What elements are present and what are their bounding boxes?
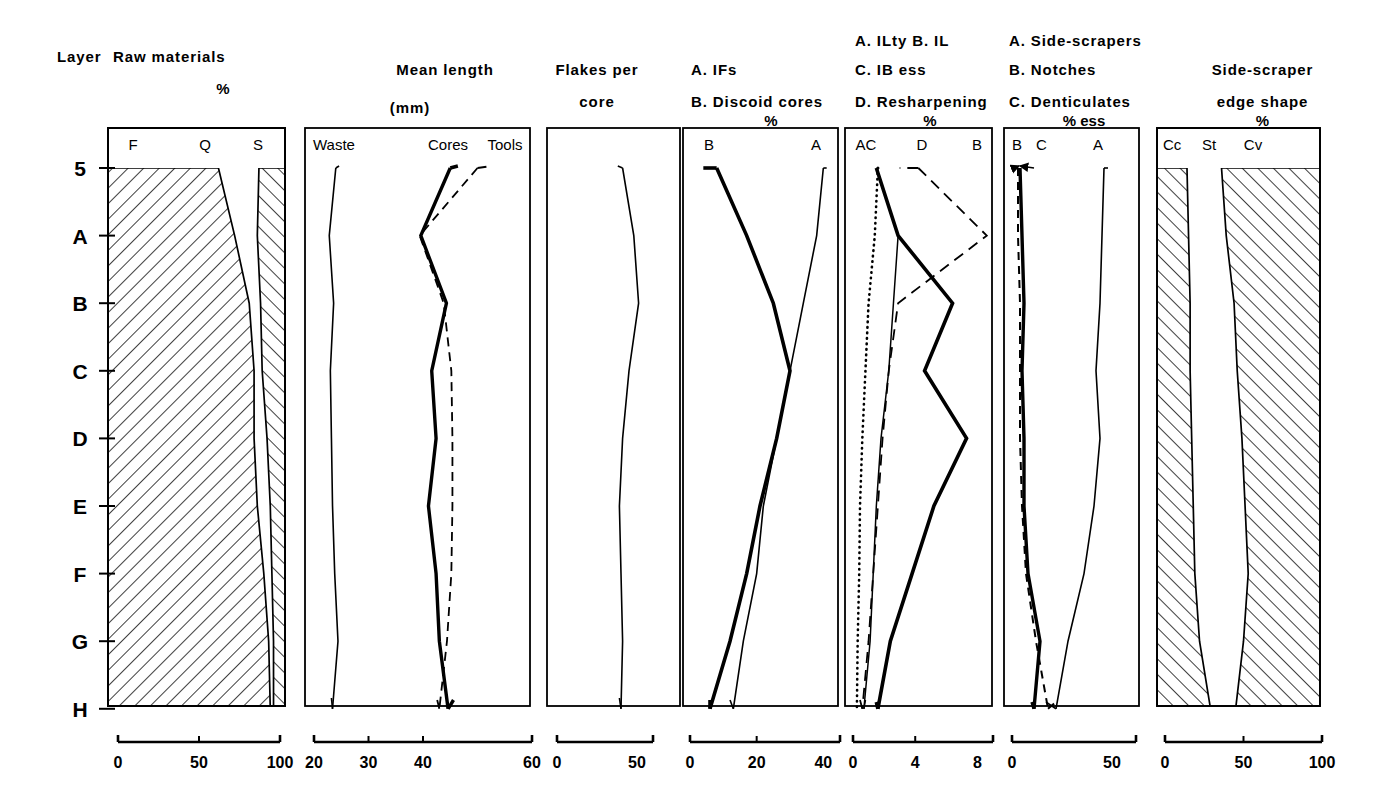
axis-tick-label-edge-shape-100: 100	[1309, 754, 1336, 771]
curve-ib-ess-C	[857, 168, 878, 709]
axis-tick-label-raw-materials-100: 100	[267, 754, 294, 771]
axis-tick-label-scrapers-50: 50	[1103, 754, 1121, 771]
area-edge-Cv	[1222, 168, 1320, 709]
layer-label-G: G	[72, 630, 88, 653]
leader-arrow-denticulates	[1020, 166, 1034, 168]
axis-tick-label-ifs-discoid-0: 0	[686, 754, 695, 771]
series-label-b-p4: B	[972, 136, 982, 153]
series-label-group: FQSWasteCoresToolsBAACDBBCACcStCv	[128, 136, 1262, 153]
layer-label-5: 5	[74, 157, 86, 180]
layer-label-B: B	[72, 292, 87, 315]
layer-label-D: D	[72, 427, 87, 450]
series-label-cv-p6: Cv	[1244, 136, 1263, 153]
area-raw-F	[108, 168, 270, 709]
layer-label-F: F	[74, 563, 87, 586]
axis-ifs-discoid: 02040	[686, 735, 840, 771]
diagram-svg: 5ABCDEFGH FQSWasteCoresToolsBAACDBBCACcS…	[0, 0, 1378, 812]
axis-flakes-per-core: 050	[553, 735, 653, 771]
axis-tick-label-scrapers-0: 0	[1008, 754, 1017, 771]
series-label-b-p5: B	[1012, 136, 1022, 153]
layer-label-C: C	[72, 360, 87, 383]
series-label-waste-p1: Waste	[313, 136, 355, 153]
axis-mean-length: 20304060	[305, 735, 541, 771]
axis-tick-label-ifs-discoid-20: 20	[748, 754, 766, 771]
series-label-a-p5: A	[1093, 136, 1103, 153]
curve-il-B	[876, 168, 966, 709]
axis-ilty: 048	[849, 735, 993, 771]
axis-raw-materials: 050100	[114, 735, 294, 771]
series-label-st-p6: St	[1202, 136, 1217, 153]
curve-mean-length-cores	[421, 168, 450, 709]
series-label-cores-p1: Cores	[428, 136, 468, 153]
axis-tick-label-ilty-4: 4	[911, 754, 920, 771]
series-label-a-p3: A	[811, 136, 821, 153]
panel-frame-ifs-discoid	[683, 128, 838, 706]
series-label-tools-p1: Tools	[487, 136, 522, 153]
curve-mean-length-waste	[329, 168, 338, 709]
axis-tick-label-edge-shape-50: 50	[1235, 754, 1253, 771]
axis-edge-shape: 050100	[1161, 735, 1336, 771]
leader-arrow-notches	[1014, 166, 1019, 168]
panel-frame-mean-length	[305, 128, 530, 706]
layer-label-E: E	[73, 495, 87, 518]
axis-scrapers: 050	[1008, 735, 1136, 771]
layer-label-A: A	[72, 225, 87, 248]
layer-label-H: H	[72, 698, 87, 721]
curve-flakes-per-core	[619, 168, 638, 709]
figure-canvas: Layer Raw materials % Mean length (mm) F…	[0, 0, 1378, 812]
curve-notches-B	[1020, 168, 1040, 709]
panel-frame-flakes-per-core	[547, 128, 680, 706]
axis-group: 0501002030406005002040048050050100	[114, 735, 1336, 771]
series-label-c-p5: C	[1036, 136, 1047, 153]
series-label-f-p0: F	[128, 136, 137, 153]
axis-tick-label-flakes-per-core-0: 0	[553, 754, 562, 771]
axis-tick-label-flakes-per-core-50: 50	[628, 754, 646, 771]
area-edge-Cc	[1157, 168, 1211, 709]
series-label-q-p0: Q	[199, 136, 211, 153]
axis-tick-label-mean-length-40: 40	[414, 754, 432, 771]
curve-mean-length-tools	[420, 168, 478, 709]
axis-tick-label-ilty-8: 8	[973, 754, 982, 771]
axis-tick-label-mean-length-30: 30	[360, 754, 378, 771]
axis-tick-label-edge-shape-0: 0	[1161, 754, 1170, 771]
axis-tick-label-ifs-discoid-40: 40	[814, 754, 832, 771]
curve-discoid-cores-B	[710, 168, 790, 709]
axis-tick-label-mean-length-20: 20	[305, 754, 323, 771]
panel-frame-ilty	[845, 128, 992, 706]
series-label-d-p4: D	[917, 136, 928, 153]
series-label-ac-p4: AC	[856, 136, 877, 153]
axis-tick-label-raw-materials-0: 0	[114, 754, 123, 771]
axis-tick-label-ilty-0: 0	[849, 754, 858, 771]
series-label-cc-p6: Cc	[1163, 136, 1182, 153]
axis-tick-label-mean-length-60: 60	[523, 754, 541, 771]
series-label-s-p0: S	[253, 136, 263, 153]
curve-side-scrapers-A	[1056, 168, 1104, 709]
axis-tick-label-raw-materials-50: 50	[190, 754, 208, 771]
series-label-b-p3: B	[704, 136, 714, 153]
